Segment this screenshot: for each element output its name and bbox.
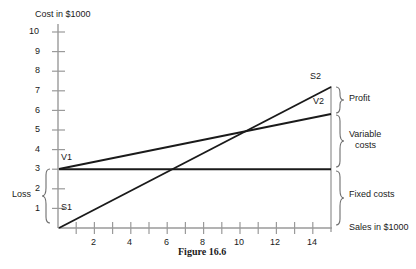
fixed-costs-brace <box>336 171 344 225</box>
profit-brace <box>336 87 344 113</box>
y-tick-label-1: 1 <box>35 204 40 213</box>
y-tick-label-2: 2 <box>35 184 40 193</box>
y-tick-label-7: 7 <box>35 86 40 95</box>
x-tick-label-10: 10 <box>234 238 244 247</box>
x-tick-label-12: 12 <box>270 238 280 247</box>
y-tick-label-10: 10 <box>29 27 39 36</box>
figure-caption: Figure 16.6 <box>178 246 226 257</box>
variable-costs-brace <box>336 115 344 167</box>
point-label-s2: S2 <box>310 72 321 81</box>
y-tick-label-3: 3 <box>35 164 40 173</box>
x-tick-label-6: 6 <box>164 238 169 247</box>
x-tick-label-14: 14 <box>307 238 317 247</box>
y-tick-label-9: 9 <box>35 47 40 56</box>
y-tick-label-8: 8 <box>35 66 40 75</box>
point-label-v2: V2 <box>313 97 324 106</box>
profit-label: Profit <box>349 94 370 103</box>
variable-costs-label-line2: costs <box>355 141 376 150</box>
point-label-v1: V1 <box>61 153 72 162</box>
x-axis-title: Sales in $1000 <box>349 223 409 232</box>
variable-costs-label-line1: Variable <box>349 130 381 139</box>
x-tick-label-2: 2 <box>91 238 96 247</box>
y-axis-title: Cost in $1000 <box>35 10 91 19</box>
loss-brace <box>42 169 50 223</box>
sales-line <box>59 87 331 228</box>
total-cost-line <box>59 114 331 169</box>
loss-label: Loss <box>12 190 31 199</box>
y-tick-label-6: 6 <box>35 106 40 115</box>
x-tick-label-4: 4 <box>127 238 132 247</box>
y-tick-label-5: 5 <box>35 125 40 134</box>
fixed-costs-label: Fixed costs <box>349 190 395 199</box>
figure-container: Cost in $1000 10 9 8 7 6 5 4 3 2 1 2 4 6… <box>0 0 416 269</box>
y-tick-label-4: 4 <box>35 145 40 154</box>
point-label-s1: S1 <box>61 203 72 212</box>
